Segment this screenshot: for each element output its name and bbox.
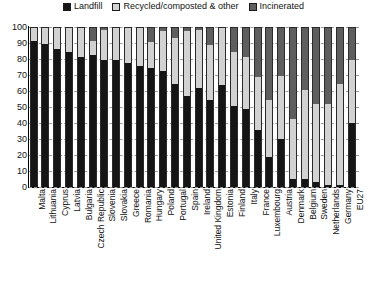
x-tick-label: Cyprus: [60, 189, 70, 216]
bar-segment-incinerated: [243, 28, 249, 57]
bar: [265, 27, 273, 187]
bar-segment-landfill: [302, 179, 308, 187]
bar-segment-incinerated: [349, 28, 355, 60]
bar-segment-landfill: [172, 84, 178, 187]
bar: [242, 27, 250, 187]
bar-segment-recycled: [184, 31, 190, 96]
bar: [124, 27, 132, 187]
bar-segment-recycled: [302, 90, 308, 179]
bar-segment-landfill: [78, 57, 84, 187]
bar-segment-landfill: [101, 60, 107, 187]
bar: [136, 27, 144, 187]
bar-segment-landfill: [42, 44, 48, 187]
bar: [89, 27, 97, 187]
bar-group: [29, 27, 359, 187]
y-tick-label: 30: [1, 135, 27, 144]
x-tick-label: Malta: [37, 189, 47, 210]
y-tick-label: 20: [1, 151, 27, 160]
bar-segment-incinerated: [255, 28, 261, 77]
chart-legend: Landfill Recycled/composted & other Inci…: [0, 2, 367, 11]
y-tick-label: 60: [1, 87, 27, 96]
x-tick-label: United Kingdom: [213, 189, 223, 249]
y-tick-label: 50: [1, 103, 27, 112]
bar-segment-recycled: [101, 30, 107, 60]
legend-swatch-recycled: [112, 3, 120, 11]
bar-segment-landfill: [278, 139, 284, 187]
bar: [41, 27, 49, 187]
bar-segment-landfill: [266, 157, 272, 187]
bar-segment-incinerated: [313, 28, 319, 104]
bar-segment-landfill: [137, 66, 143, 187]
bar-segment-landfill: [337, 185, 343, 187]
bar-segment-incinerated: [148, 28, 154, 42]
bar-segment-recycled: [172, 38, 178, 84]
bar-segment-recycled: [313, 104, 319, 182]
bar-segment-recycled: [255, 77, 261, 129]
bar-segment-recycled: [160, 31, 166, 71]
legend-label-recycled: Recycled/composted & other: [123, 2, 238, 11]
x-tick-label: Luxembourg: [272, 189, 282, 236]
bar-segment-incinerated: [290, 28, 296, 119]
bar: [301, 27, 309, 187]
bar-segment-recycled: [90, 41, 96, 55]
x-tick-label: Germany: [343, 189, 353, 224]
y-tick-label: 70: [1, 71, 27, 80]
bar-segment-landfill: [54, 49, 60, 187]
x-tick-label: Italy: [249, 189, 259, 205]
legend-label-landfill: Landfill: [74, 2, 103, 11]
x-tick-label: Sweden: [319, 189, 329, 220]
bar-segment-recycled: [325, 104, 331, 185]
bar-segment-incinerated: [207, 28, 213, 45]
x-tick-label: Czech Republic: [96, 189, 106, 249]
bar: [206, 27, 214, 187]
y-tick-label: 0: [1, 183, 27, 192]
x-axis-labels: MaltaLithuaniaCyprusLatviaBulgariaCzech …: [29, 189, 359, 289]
bar-segment-recycled: [148, 42, 154, 67]
bar: [183, 27, 191, 187]
y-tick-label: 10: [1, 167, 27, 176]
bar-segment-recycled: [66, 28, 72, 52]
x-tick-label: France: [261, 189, 271, 215]
bar: [30, 27, 38, 187]
bar-segment-landfill: [219, 85, 225, 187]
bar-segment-recycled: [231, 52, 237, 106]
x-tick-label: Bulgaria: [84, 189, 94, 220]
y-tick-label: 90: [1, 39, 27, 48]
bar-segment-recycled: [337, 84, 343, 186]
bar-segment-landfill: [90, 55, 96, 187]
stacked-bar-chart: Landfill Recycled/composted & other Inci…: [0, 0, 367, 289]
bar-segment-landfill: [243, 109, 249, 187]
bar-segment-incinerated: [90, 28, 96, 41]
bar-segment-recycled: [266, 100, 272, 157]
x-tick-label: Romania: [143, 189, 153, 223]
bar-segment-landfill: [113, 60, 119, 187]
bar-segment-recycled: [78, 28, 84, 57]
y-tick-label: 100: [1, 23, 27, 32]
x-tick-label: Finland: [237, 189, 247, 217]
bar-segment-landfill: [349, 123, 355, 187]
bar-segment-recycled: [137, 28, 143, 66]
bar: [277, 27, 285, 187]
bar: [254, 27, 262, 187]
bar-segment-incinerated: [278, 28, 284, 76]
x-tick-label: Slovakia: [119, 189, 129, 221]
bar-segment-landfill: [160, 71, 166, 187]
bar-segment-incinerated: [337, 28, 343, 84]
x-tick-label: Portugal: [178, 189, 188, 221]
y-axis-ticks: 0102030405060708090100: [0, 0, 27, 289]
bar-segment-landfill: [125, 63, 131, 187]
x-tick-label: Slovenia: [107, 189, 117, 222]
bar-segment-incinerated: [302, 28, 308, 90]
bar-segment-recycled: [196, 30, 202, 89]
x-tick-label: Denmark: [296, 189, 306, 223]
bar-segment-landfill: [207, 100, 213, 187]
x-tick-label: Belgium: [308, 189, 318, 220]
legend-item-incinerated: Incinerated: [249, 2, 305, 11]
bar-segment-landfill: [255, 130, 261, 187]
x-tick-label: EU27: [355, 189, 365, 210]
bar: [77, 27, 85, 187]
bar: [348, 27, 356, 187]
bar: [218, 27, 226, 187]
bar-segment-landfill: [325, 185, 331, 187]
bar: [147, 27, 155, 187]
